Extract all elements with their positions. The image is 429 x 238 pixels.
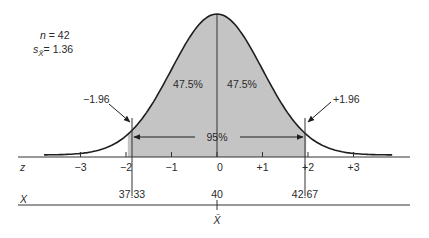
sample-size-label: n = 42 bbox=[40, 29, 70, 41]
z-axis-ticks: −3−2−10+1+2+3 bbox=[75, 152, 360, 173]
percent-95-label: 95% bbox=[206, 131, 227, 143]
z-tick-label: +3 bbox=[348, 161, 360, 173]
left-z-arrow bbox=[109, 104, 130, 122]
z-tick-label: −3 bbox=[75, 161, 87, 173]
x-bar-label: X̄ bbox=[212, 214, 221, 226]
z-axis-label: z bbox=[19, 161, 26, 173]
normal-curve-chart: 95% 47.5% 47.5% −1.96 +1.96 n = 42 sX̄= … bbox=[0, 0, 429, 238]
x-tick-upper: 42.67 bbox=[292, 188, 318, 200]
standard-error-label: sX̄= 1.36 bbox=[33, 43, 73, 58]
z-tick-label: −1 bbox=[166, 161, 178, 173]
z-tick-label: −2 bbox=[120, 161, 132, 173]
left-half-percent: 47.5% bbox=[173, 78, 203, 90]
right-half-percent: 47.5% bbox=[227, 78, 257, 90]
left-z-annotation: −1.96 bbox=[83, 93, 110, 105]
x-tick-mean: 40 bbox=[211, 188, 223, 200]
right-z-annotation: +1.96 bbox=[333, 93, 360, 105]
x-tick-lower: 37.33 bbox=[119, 188, 145, 200]
z-tick-label: 0 bbox=[217, 161, 223, 173]
z-tick-label: +2 bbox=[302, 161, 314, 173]
right-z-arrow bbox=[308, 102, 331, 122]
z-tick-label: +1 bbox=[257, 161, 269, 173]
x-axis-label: X bbox=[19, 193, 28, 205]
